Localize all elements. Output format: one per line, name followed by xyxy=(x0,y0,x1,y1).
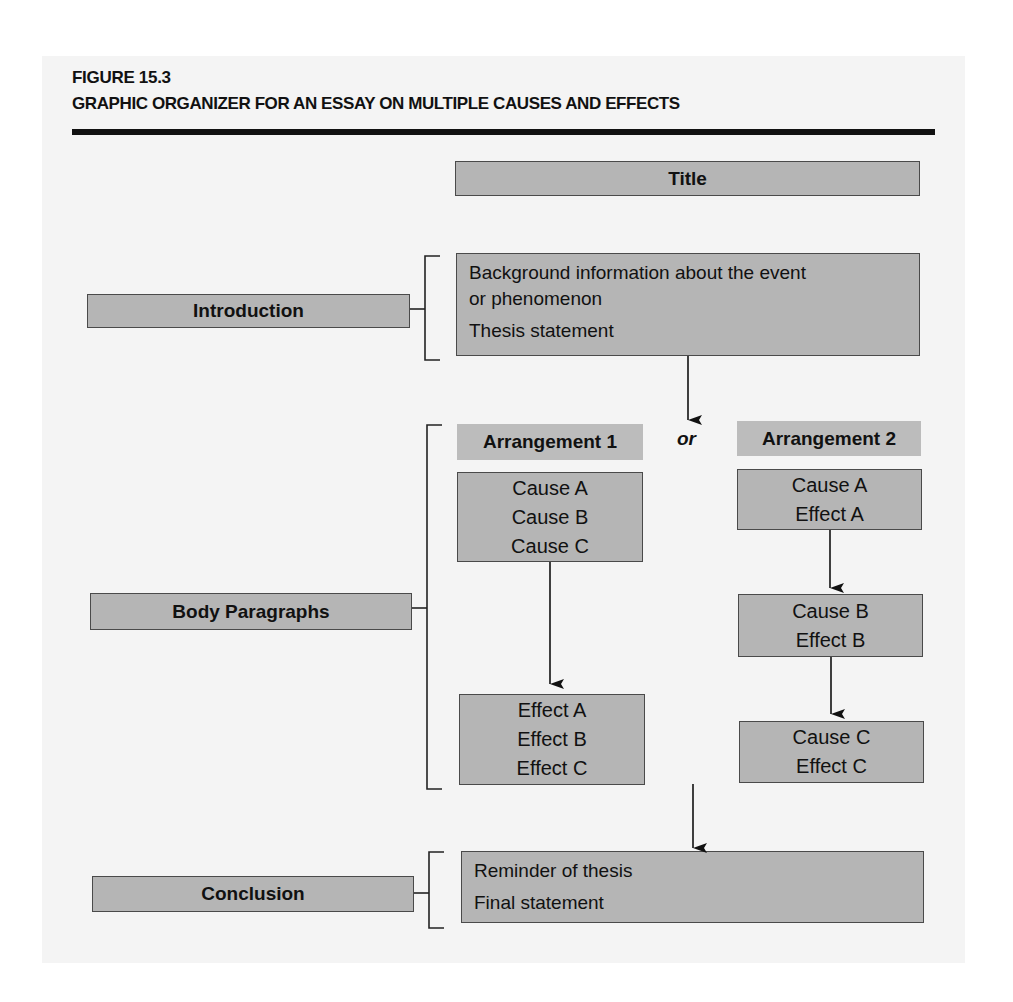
introduction-bracket xyxy=(410,256,440,360)
body-bracket xyxy=(412,425,442,789)
connector-lines xyxy=(0,0,1013,1002)
conclusion-bracket xyxy=(414,852,444,928)
